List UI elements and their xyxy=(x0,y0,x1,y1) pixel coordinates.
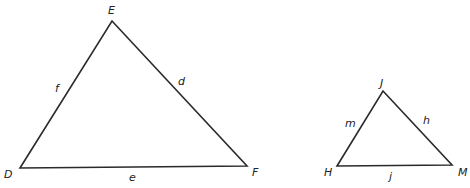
side-label-d: d xyxy=(178,75,186,88)
vertex-label-m: M xyxy=(458,166,468,179)
vertex-label-j: J xyxy=(378,77,383,90)
side-label-f: f xyxy=(55,82,61,95)
vertex-label-h: H xyxy=(324,166,332,179)
side-label-m: m xyxy=(345,117,356,130)
vertex-label-f: F xyxy=(252,166,259,179)
side-label-j: j xyxy=(387,170,393,183)
vertex-label-e: E xyxy=(108,4,115,17)
similar-triangles-diagram: E D F f d e J H M m h j xyxy=(0,0,470,188)
side-label-e: e xyxy=(129,171,136,184)
side-label-h: h xyxy=(423,114,430,127)
vertex-label-d: D xyxy=(4,168,12,181)
